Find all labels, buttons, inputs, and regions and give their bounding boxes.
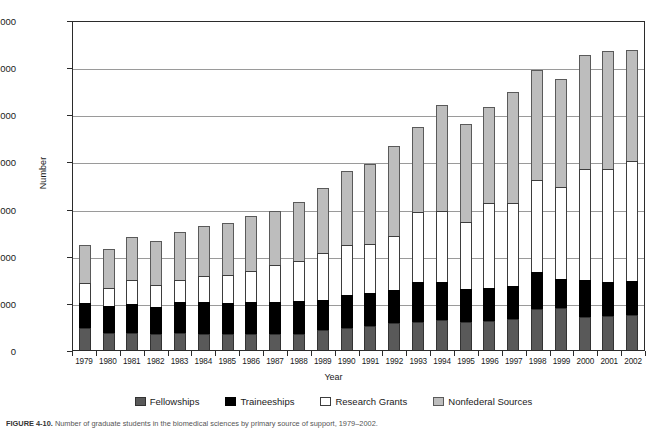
stacked-bar[interactable] <box>174 232 186 350</box>
stacked-bar[interactable] <box>103 249 115 350</box>
bar-segment-fellowships <box>626 315 638 350</box>
stacked-bar[interactable] <box>460 124 472 350</box>
x-tick-mark <box>287 351 288 356</box>
bar-segment-nonfederal <box>602 51 614 170</box>
bar-column[interactable] <box>144 22 168 350</box>
bar-column[interactable] <box>549 22 573 350</box>
bar-column[interactable] <box>406 22 430 350</box>
x-tick-label: 1996 <box>478 357 502 366</box>
bar-segment-fellowships <box>436 320 448 350</box>
stacked-bar[interactable] <box>245 216 257 350</box>
bar-column[interactable] <box>168 22 192 350</box>
plot-area <box>72 21 645 351</box>
bar-segment-grants <box>626 161 638 281</box>
bar-segment-traineeships <box>579 280 591 316</box>
bar-column[interactable] <box>311 22 335 350</box>
bar-column[interactable] <box>525 22 549 350</box>
stacked-bar[interactable] <box>269 211 281 350</box>
bar-column[interactable] <box>501 22 525 350</box>
stacked-bar[interactable] <box>222 223 234 350</box>
stacked-bar[interactable] <box>436 105 448 350</box>
legend-item[interactable]: Traineeships <box>225 396 294 407</box>
bar-segment-grants <box>579 169 591 280</box>
y-tick-label: 2,000 <box>0 298 16 309</box>
x-tick-mark <box>478 351 479 356</box>
bar-segment-fellowships <box>103 333 115 350</box>
bar-column[interactable] <box>430 22 454 350</box>
stacked-bar[interactable] <box>388 146 400 350</box>
x-tick-label: 2002 <box>621 357 645 366</box>
stacked-bar[interactable] <box>626 50 638 351</box>
bar-column[interactable] <box>359 22 383 350</box>
bar-column[interactable] <box>263 22 287 350</box>
bar-column[interactable] <box>216 22 240 350</box>
bar-segment-traineeships <box>150 307 162 335</box>
bar-column[interactable] <box>287 22 311 350</box>
stacked-bar[interactable] <box>483 107 495 350</box>
bar-segment-fellowships <box>531 309 543 350</box>
x-tick-mark <box>215 351 216 356</box>
bar-column[interactable] <box>121 22 145 350</box>
bar-segment-traineeships <box>507 286 519 320</box>
bar-segment-traineeships <box>198 302 210 334</box>
stacked-bar[interactable] <box>126 237 138 350</box>
x-tick-label: 1997 <box>502 357 526 366</box>
x-tick-label: 1981 <box>120 357 144 366</box>
x-tick-label: 1980 <box>96 357 120 366</box>
bar-column[interactable] <box>97 22 121 350</box>
x-tick-label: 1979 <box>72 357 96 366</box>
x-tick-mark <box>359 351 360 356</box>
bar-segment-fellowships <box>317 330 329 350</box>
bar-segment-traineeships <box>388 290 400 323</box>
stacked-bar[interactable] <box>293 202 305 350</box>
bar-column[interactable] <box>335 22 359 350</box>
bar-column[interactable] <box>454 22 478 350</box>
bar-column[interactable] <box>597 22 621 350</box>
bar-segment-grants <box>198 276 210 301</box>
bar-segment-grants <box>460 222 472 289</box>
stacked-bar[interactable] <box>341 171 353 350</box>
stacked-bar[interactable] <box>531 70 543 350</box>
x-tick-mark <box>573 351 574 356</box>
stacked-bar[interactable] <box>507 92 519 350</box>
x-tick-label: 1998 <box>526 357 550 366</box>
legend-item[interactable]: Nonfederal Sources <box>433 396 532 407</box>
bar-column[interactable] <box>382 22 406 350</box>
stacked-bar[interactable] <box>79 245 91 350</box>
bar-column[interactable] <box>478 22 502 350</box>
legend-swatch-fellowships <box>135 397 146 406</box>
bar-column[interactable] <box>240 22 264 350</box>
stacked-bar[interactable] <box>579 55 591 350</box>
stacked-bar[interactable] <box>364 164 376 350</box>
bar-column[interactable] <box>192 22 216 350</box>
stacked-bar[interactable] <box>412 127 424 350</box>
stacked-bar[interactable] <box>150 241 162 350</box>
bar-segment-traineeships <box>531 272 543 309</box>
legend-item[interactable]: Fellowships <box>135 396 200 407</box>
bar-segment-nonfederal <box>626 50 638 161</box>
stacked-bar[interactable] <box>555 79 567 350</box>
bar-segment-grants <box>222 275 234 303</box>
bar-segment-grants <box>79 283 91 303</box>
stacked-bar[interactable] <box>602 51 614 350</box>
legend-item[interactable]: Research Grants <box>320 396 407 407</box>
bar-segment-traineeships <box>293 301 305 334</box>
bar-column[interactable] <box>620 22 644 350</box>
figure-caption-text: Number of graduate students in the biome… <box>55 419 378 428</box>
bar-segment-fellowships <box>293 334 305 350</box>
bar-segment-traineeships <box>460 289 472 322</box>
x-tick-label: 2001 <box>597 357 621 366</box>
stacked-bar[interactable] <box>317 188 329 350</box>
bar-segment-nonfederal <box>579 55 591 168</box>
bar-column[interactable] <box>73 22 97 350</box>
y-tick-label: 14,000 <box>0 16 16 27</box>
x-tick-mark <box>502 351 503 356</box>
legend-label: Nonfederal Sources <box>448 396 532 407</box>
bar-segment-nonfederal <box>364 164 376 244</box>
bar-column[interactable] <box>573 22 597 350</box>
bar-segment-traineeships <box>412 282 424 322</box>
y-tick-label: 6,000 <box>0 204 16 215</box>
bar-segment-fellowships <box>126 333 138 350</box>
bar-segment-fellowships <box>388 323 400 350</box>
stacked-bar[interactable] <box>198 226 210 350</box>
